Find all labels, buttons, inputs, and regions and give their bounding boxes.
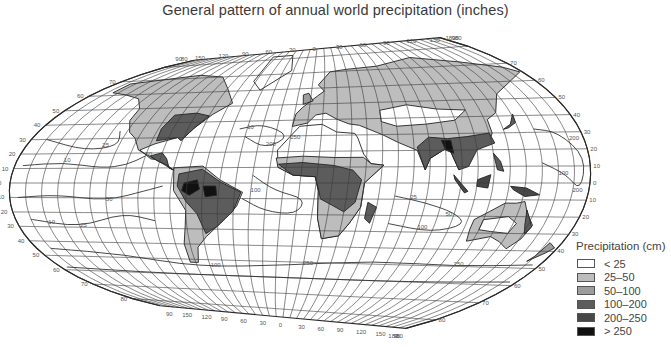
isohyet-value-label: 200 bbox=[569, 135, 580, 141]
world-precipitation-map: 7070606050504040303020201010001010202030… bbox=[0, 0, 671, 349]
isohyet-value-label: 25 bbox=[102, 142, 109, 148]
land-zone bbox=[477, 175, 491, 188]
latitude-label-right: 60 bbox=[514, 283, 521, 289]
latitude-label-right: 40 bbox=[573, 112, 580, 118]
isohyet-value-label: 100 bbox=[251, 187, 262, 193]
latitude-label-right: 70 bbox=[510, 60, 517, 66]
latitude-label-right: 40 bbox=[557, 248, 564, 254]
isohyet-value-label: 200 bbox=[266, 141, 277, 147]
isohyet-value-label: 10 bbox=[64, 157, 71, 163]
legend-label: 25–50 bbox=[604, 271, 635, 283]
isohyet-value-label: 10 bbox=[48, 219, 55, 225]
longitude-label-bottom: 60 bbox=[240, 318, 247, 324]
longitude-label-top: 90 bbox=[242, 51, 249, 57]
legend-item: < 25 bbox=[576, 257, 671, 270]
longitude-label-bottom: 30 bbox=[259, 320, 266, 326]
latitude-label-right: 30 bbox=[572, 231, 579, 237]
legend-item: > 250 bbox=[576, 325, 671, 338]
longitude-label-top: 30 bbox=[336, 44, 343, 50]
legend-swatch-lt25 bbox=[577, 259, 595, 268]
legend-swatch-200-250 bbox=[577, 313, 595, 322]
isohyet-value-label: 25 bbox=[410, 194, 417, 200]
isohyet-value-label: 50 bbox=[106, 196, 113, 202]
legend-item: 50–100 bbox=[576, 284, 671, 297]
longitude-label-top: 120 bbox=[406, 38, 417, 44]
isohyet-value-label: 10 bbox=[247, 124, 254, 130]
isohyet-line bbox=[242, 175, 302, 213]
isohyet-value-label: 250 bbox=[303, 260, 314, 266]
latitude-label-left: 50 bbox=[53, 108, 60, 114]
longitude-label-bottom: 60 bbox=[317, 326, 324, 332]
latitude-label-left: 0 bbox=[0, 180, 2, 186]
longitude-label-top: 150 bbox=[430, 37, 441, 43]
longitude-label-top: 60 bbox=[359, 42, 366, 48]
legend-label: 200–250 bbox=[604, 312, 647, 324]
latitude-label-left: 70 bbox=[109, 79, 116, 85]
legend-title: Precipitation (cm) bbox=[576, 240, 671, 252]
land-zone bbox=[203, 186, 217, 197]
longitude-label-bottom: 30 bbox=[298, 324, 305, 330]
longitude-label-top: 90 bbox=[383, 40, 390, 46]
land-zone bbox=[527, 243, 555, 262]
isohyet-value-label: 100 bbox=[558, 170, 569, 176]
land-precipitation-zones bbox=[113, 55, 555, 262]
longitude-label-top: 80 bbox=[455, 35, 462, 41]
isohyet-value-label: 250 bbox=[290, 134, 301, 140]
longitude-label-top: 60 bbox=[265, 49, 272, 55]
legend-item: 25–50 bbox=[576, 271, 671, 284]
legend-item: 200–250 bbox=[576, 311, 671, 324]
legend-label: 100–200 bbox=[604, 298, 647, 310]
longitude-label-bottom: 120 bbox=[201, 314, 212, 320]
latitude-label-left: 60 bbox=[53, 267, 60, 273]
isohyet-value-label: 200 bbox=[572, 187, 583, 193]
longitude-label-bottom: 80 bbox=[396, 333, 403, 339]
isohyet-value-label: 50 bbox=[446, 211, 453, 217]
longitude-label-bottom: 90 bbox=[337, 327, 344, 333]
longitude-label-bottom: 90 bbox=[221, 316, 228, 322]
isohyet-value-label: 50 bbox=[145, 151, 152, 157]
land-zone bbox=[365, 202, 377, 223]
isohyet-value-label: 100 bbox=[211, 262, 222, 268]
latitude-label-right: 30 bbox=[584, 129, 591, 135]
legend-swatch-50-100 bbox=[577, 286, 595, 295]
latitude-label-right: 0 bbox=[593, 180, 597, 186]
latitude-label-left: 20 bbox=[1, 209, 8, 215]
latitude-label-left: 40 bbox=[34, 122, 41, 128]
latitude-label-right: 80 bbox=[439, 317, 446, 323]
latitude-label-right: 60 bbox=[538, 77, 545, 83]
latitude-label-right: 50 bbox=[538, 266, 545, 272]
longitude-label-bottom: 150 bbox=[375, 331, 386, 337]
land-zone bbox=[503, 114, 515, 129]
legend-swatch-25-50 bbox=[577, 273, 595, 282]
longitude-label-top: 80 bbox=[181, 56, 188, 62]
latitude-label-right: 10 bbox=[593, 163, 600, 169]
longitude-label-top: 150 bbox=[195, 55, 206, 61]
isohyet-value-label: 25 bbox=[80, 222, 87, 228]
latitude-label-left: 70 bbox=[81, 281, 88, 287]
land-zone bbox=[511, 186, 540, 196]
legend-swatch-100-200 bbox=[577, 300, 595, 309]
isohyet-line bbox=[46, 131, 120, 149]
latitude-label-right: 70 bbox=[482, 300, 489, 306]
latitude-label-left: 60 bbox=[77, 93, 84, 99]
longitude-label-bottom: 120 bbox=[356, 329, 367, 335]
latitude-label-left: 20 bbox=[9, 151, 16, 157]
precipitation-legend: Precipitation (cm) < 25 25–50 50–100 100… bbox=[576, 240, 671, 338]
land-zone bbox=[493, 153, 504, 171]
isohyet-line bbox=[23, 156, 146, 167]
longitude-label-bottom: 90 bbox=[166, 311, 173, 317]
legend-label: < 25 bbox=[604, 258, 626, 270]
latitude-label-right: 10 bbox=[589, 197, 596, 203]
legend-label: > 250 bbox=[604, 325, 632, 337]
latitude-label-left: 30 bbox=[7, 223, 14, 229]
latitude-label-right: 20 bbox=[582, 214, 589, 220]
longitude-label-top: 120 bbox=[218, 53, 229, 59]
latitude-label-left: 80 bbox=[120, 296, 127, 302]
latitude-label-left: 10 bbox=[2, 166, 9, 172]
longitude-label-bottom: 150 bbox=[182, 312, 193, 318]
latitude-label-left: 10 bbox=[0, 194, 5, 200]
legend-item: 100–200 bbox=[576, 298, 671, 311]
graticule-grid bbox=[9, 38, 590, 329]
legend-swatch-gt250 bbox=[577, 327, 595, 336]
longitude-label-bottom: 0 bbox=[279, 322, 283, 328]
